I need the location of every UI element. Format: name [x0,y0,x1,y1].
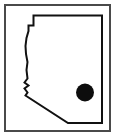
map-canvas [0,0,117,139]
arizona-locator-map-figure: Arizona Outline map of the state of Ariz… [0,0,117,139]
location-marker-dot [76,84,94,102]
